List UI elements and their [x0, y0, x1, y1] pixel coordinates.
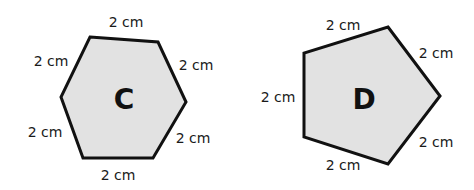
pentagon-side-bottom-left-label: 2 cm — [326, 157, 361, 173]
hexagon-side-top-label: 2 cm — [109, 14, 144, 30]
hexagon-side-lower-right-label: 2 cm — [176, 130, 211, 146]
pentagon-side-top-right-label: 2 cm — [419, 45, 454, 61]
diagram-canvas: C 2 cm 2 cm 2 cm 2 cm 2 cm 2 cm D 2 cm 2… — [0, 0, 474, 190]
pentagon-letter: D — [352, 83, 375, 116]
pentagon-side-bottom-right-label: 2 cm — [419, 134, 454, 150]
hexagon-side-lower-left-label: 2 cm — [28, 124, 63, 140]
pentagon-side-left-label: 2 cm — [261, 89, 296, 105]
pentagon-side-top-left-label: 2 cm — [326, 17, 361, 33]
hexagon-side-upper-right-label: 2 cm — [179, 57, 214, 73]
shapes-figure: C 2 cm 2 cm 2 cm 2 cm 2 cm 2 cm D 2 cm 2… — [0, 0, 474, 190]
hexagon-c: C 2 cm 2 cm 2 cm 2 cm 2 cm 2 cm — [28, 14, 214, 183]
hexagon-side-bottom-label: 2 cm — [101, 167, 136, 183]
pentagon-d: D 2 cm 2 cm 2 cm 2 cm 2 cm — [261, 17, 454, 173]
hexagon-side-upper-left-label: 2 cm — [34, 53, 69, 69]
hexagon-letter: C — [114, 83, 135, 116]
